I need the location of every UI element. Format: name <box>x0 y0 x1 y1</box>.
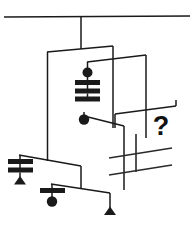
three-bar-stack-bar-3 <box>75 97 100 102</box>
one-bar-stack-bar-1 <box>40 188 65 193</box>
top-crossbar <box>47 46 113 52</box>
mobile-balance-diagram: ? <box>0 0 194 227</box>
triangle-weight-bottom <box>104 207 116 216</box>
circle-weight-middle <box>79 114 89 124</box>
circle-weight-upper <box>83 68 93 78</box>
middle-crossbar <box>84 116 124 126</box>
second-crossbar <box>87 55 146 62</box>
three-bar-stack-bar-1 <box>75 80 100 85</box>
circle-weight-lower <box>47 196 57 206</box>
unknown-question-mark: ? <box>153 111 170 141</box>
two-bar-stack-bar-2 <box>8 168 33 173</box>
two-bar-stack-bar-1 <box>8 159 33 164</box>
three-bar-stack-bar-2 <box>75 89 100 94</box>
ceiling-line <box>4 16 190 17</box>
thin-bar-upper-right <box>109 148 172 158</box>
thin-bar-lower-right <box>109 165 172 175</box>
triangle-weight-left <box>14 176 26 185</box>
